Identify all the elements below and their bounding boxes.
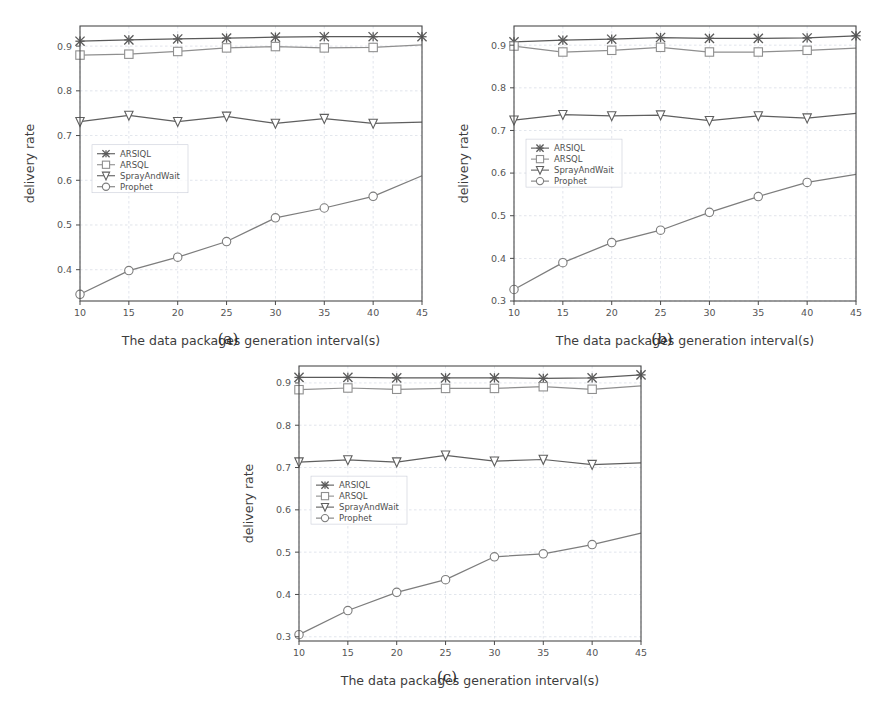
caption-b: (b) [452,330,872,348]
chart-panel-a: 10152025303540450.40.50.60.70.80.9The da… [18,12,438,357]
circle-marker-icon [393,588,401,596]
x-marker-icon [588,373,597,382]
square-marker-icon [271,42,279,50]
series-arsiql [509,31,860,46]
x-marker-icon [343,373,352,382]
series-sprayandwait [76,111,422,128]
square-marker-icon [490,384,498,392]
x-tick-label: 20 [391,647,403,658]
x-tick-label: 30 [269,307,281,318]
legend-label: ARSQL [120,160,149,170]
square-marker-icon [174,47,182,55]
x-marker-icon [369,32,378,41]
legend-label: Prophet [120,182,153,192]
plot-area-b: 10152025303540450.30.40.50.60.70.80.9The… [452,12,872,357]
x-marker-icon [754,34,763,43]
legend-label: ARSIQL [120,149,151,159]
y-tick-label: 0.7 [57,130,72,141]
x-marker-icon [392,373,401,382]
square-marker-icon [608,46,616,54]
y-tick-label: 0.5 [491,210,506,221]
x-marker-icon [803,33,812,42]
chart-panel-b: 10152025303540450.30.40.50.60.70.80.9The… [452,12,872,357]
triangle-down-marker-icon [174,117,182,126]
x-tick-label: 15 [123,307,135,318]
square-marker-icon [754,48,762,56]
square-marker-icon [536,156,543,163]
x-tick-label: 10 [74,307,86,318]
y-tick-label: 0.6 [491,167,506,178]
x-tick-label: 45 [635,647,647,658]
y-tick-label: 0.7 [276,462,291,473]
x-tick-label: 10 [508,307,520,318]
square-marker-icon [393,385,401,393]
y-axis-label: delivery rate [22,123,37,203]
caption-a: (a) [18,330,438,348]
y-tick-label: 0.9 [57,41,72,52]
chart-panel-c: 10152025303540450.30.40.50.60.70.80.9The… [237,352,657,697]
y-tick-label: 0.4 [57,264,72,275]
figure-three-line-charts: 10152025303540450.40.50.60.70.80.9The da… [0,0,890,702]
square-marker-icon [588,385,596,393]
x-marker-icon [271,33,280,42]
y-axis-label: delivery rate [456,123,471,203]
x-marker-icon [656,33,665,42]
y-tick-label: 0.4 [491,253,506,264]
x-tick-label: 20 [172,307,184,318]
x-marker-icon [222,33,231,42]
legend-label: Prophet [339,513,372,523]
x-tick-label: 35 [752,307,764,318]
legend-label: SprayAndWait [120,171,181,181]
x-tick-label: 15 [342,647,354,658]
x-marker-icon [173,34,182,43]
circle-marker-icon [656,226,664,234]
x-marker-icon [320,32,329,41]
square-marker-icon [344,384,352,392]
legend-label: ARSIQL [339,480,370,490]
series-arsiql [294,370,645,383]
y-tick-label: 0.8 [57,85,72,96]
y-tick-label: 0.6 [57,175,72,186]
x-tick-label: 20 [606,307,618,318]
chart-legend: ARSIQLARSQLSprayAndWaitProphet [526,139,622,187]
series-line [514,174,856,289]
y-tick-label: 0.3 [276,631,291,642]
circle-marker-icon [441,575,449,583]
series-sprayandwait [295,451,641,469]
square-marker-icon [321,493,328,500]
series-prophet [510,174,856,293]
circle-marker-icon [271,214,279,222]
circle-marker-icon [803,178,811,186]
square-marker-icon [539,383,547,391]
x-marker-icon [607,35,616,44]
square-marker-icon [320,44,328,52]
square-marker-icon [369,43,377,51]
x-tick-label: 40 [367,307,379,318]
series-prophet [295,533,641,639]
x-marker-icon [124,35,133,44]
circle-marker-icon [705,208,713,216]
y-tick-label: 0.6 [276,504,291,515]
x-tick-label: 25 [655,307,667,318]
x-marker-icon [539,374,548,383]
series-arsql [510,42,856,56]
series-arsql [295,383,641,394]
y-tick-label: 0.9 [491,40,506,51]
circle-marker-icon [320,204,328,212]
circle-marker-icon [222,237,230,245]
circle-marker-icon [490,553,498,561]
circle-marker-icon [608,238,616,246]
legend-label: SprayAndWait [554,165,615,175]
plot-area-a: 10152025303540450.40.50.60.70.80.9The da… [18,12,438,357]
series-prophet [76,176,422,299]
x-marker-icon [102,150,109,157]
legend-label: Prophet [554,176,587,186]
x-tick-label: 35 [537,647,549,658]
series-sprayandwait [510,110,856,125]
x-tick-label: 45 [850,307,862,318]
chart-legend: ARSIQLARSQLSprayAndWaitProphet [92,145,188,193]
square-marker-icon [559,48,567,56]
circle-marker-icon [588,540,596,548]
x-tick-label: 40 [586,647,598,658]
plot-area-c: 10152025303540450.30.40.50.60.70.80.9The… [237,352,657,697]
